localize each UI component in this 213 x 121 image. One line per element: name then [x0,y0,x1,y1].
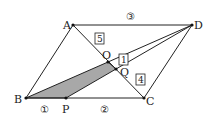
svg-text:5: 5 [97,34,103,44]
ratio-qc-box: 4 [136,74,145,85]
label-d: D [194,19,203,32]
label-b: B [14,93,22,106]
ratio-ad: ③ [126,11,135,22]
label-a: A [62,19,72,32]
label-o: O [102,49,111,62]
label-q: Q [120,66,129,79]
ratio-ao-box: 5 [95,33,104,44]
parallelogram-diagram: A D B C O Q P ③ ① ② 5 1 4 [0,0,213,121]
shaded-region [26,62,116,98]
svg-text:4: 4 [138,75,144,85]
label-p: P [62,103,70,116]
svg-text:1: 1 [121,55,127,65]
ratio-bp: ① [40,104,49,115]
label-c: C [146,95,154,108]
ratio-pc: ② [100,104,109,115]
ratio-oq-box: 1 [119,54,128,65]
